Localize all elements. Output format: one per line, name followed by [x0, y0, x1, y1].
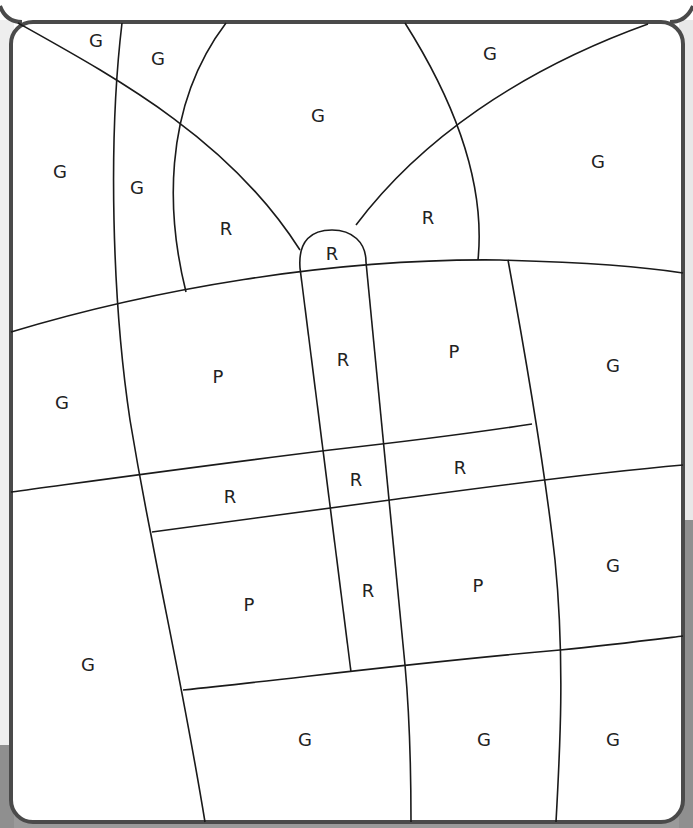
region-letter: G [151, 48, 165, 69]
region-letter: G [606, 355, 620, 376]
region-letter: R [422, 207, 435, 228]
region-letter: P [449, 341, 460, 362]
region-letter: G [606, 555, 620, 576]
region-letter: G [477, 729, 491, 750]
region-letter: R [362, 580, 375, 601]
region-letter: R [224, 486, 237, 507]
region-letter: P [244, 594, 255, 615]
region-letter: R [326, 243, 339, 264]
coloring-sheet: GGGGGGGRRRPRPGGRRRPRPGGGGG [0, 0, 693, 828]
region-letter: R [454, 457, 467, 478]
region-letter: G [606, 729, 620, 750]
region-letter: P [473, 575, 484, 596]
region-letter: R [337, 349, 350, 370]
region-letter: G [81, 654, 95, 675]
region-letter: G [53, 161, 67, 182]
region-letter: G [483, 43, 497, 64]
region-letter: G [311, 105, 325, 126]
region-letter: G [89, 30, 103, 51]
region-letter: G [298, 729, 312, 750]
region-letter: G [55, 392, 69, 413]
region-letter: G [591, 151, 605, 172]
region-letter: R [220, 218, 233, 239]
sheet-border [11, 22, 683, 822]
region-letter: P [213, 366, 224, 387]
region-letter: G [130, 177, 144, 198]
region-letter: R [350, 469, 363, 490]
